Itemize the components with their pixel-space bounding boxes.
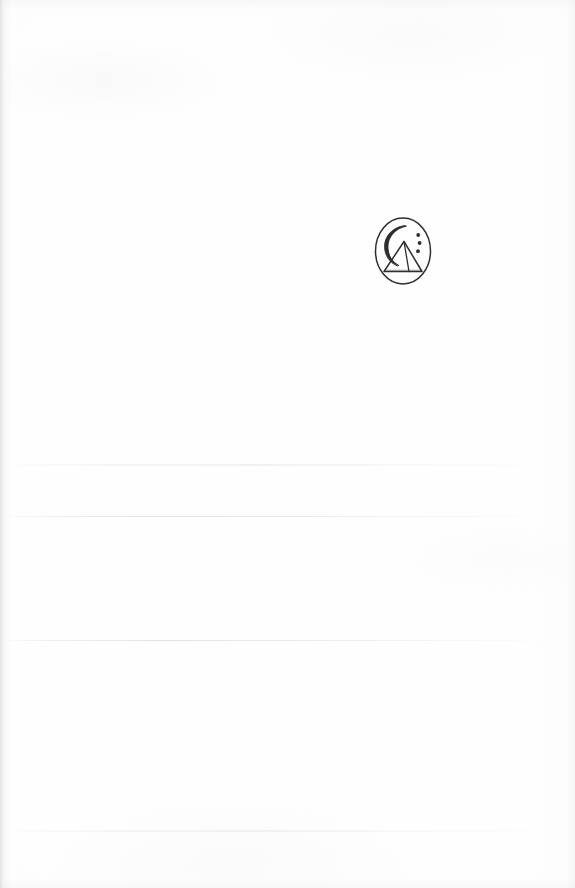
- pyramid-crescent-logo-icon: Oval emblem containing a crescent moon, …: [373, 214, 433, 288]
- page-background: [0, 0, 575, 888]
- dot-2-icon: [418, 241, 422, 245]
- dot-3-icon: [416, 249, 420, 253]
- logo-svg: [373, 214, 433, 288]
- scanned-page: Oval emblem containing a crescent moon, …: [0, 0, 575, 888]
- oval-outline-icon: [376, 218, 431, 284]
- dot-1-icon: [416, 233, 420, 237]
